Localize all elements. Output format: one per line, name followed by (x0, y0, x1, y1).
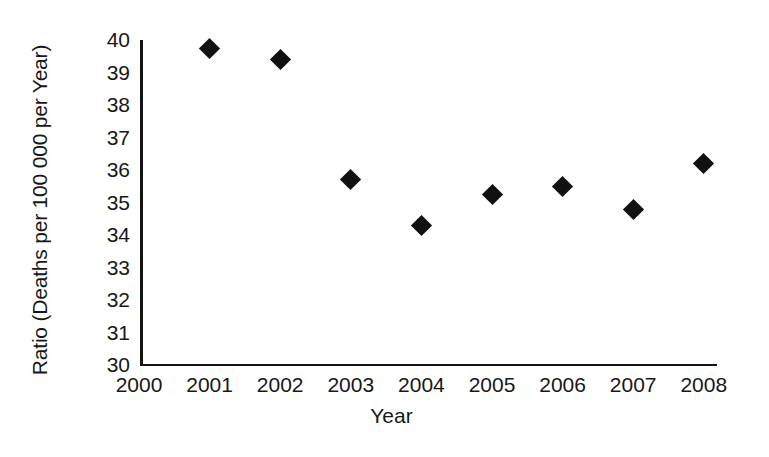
data-point-marker (481, 184, 502, 205)
data-point-marker (552, 176, 573, 197)
data-point-marker (411, 215, 432, 236)
scatter-chart: Ratio (Deaths per 100 000 per Year) 3031… (0, 0, 769, 457)
data-point-marker (199, 38, 220, 59)
x-tick-label: 2008 (659, 374, 749, 395)
x-axis-tick-labels: 200020012002200320042005200620072008 (0, 374, 769, 402)
data-point-marker (270, 49, 291, 70)
x-axis-title: Year (0, 404, 769, 428)
data-point-marker (340, 169, 361, 190)
x-axis-title-text: Year (370, 404, 412, 427)
data-point-marker (693, 153, 714, 174)
data-point-marker (623, 198, 644, 219)
